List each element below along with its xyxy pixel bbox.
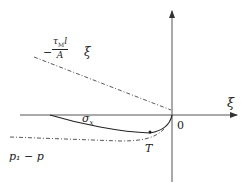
pressure-label: p₁ − p bbox=[9, 151, 44, 162]
shear-label-fraction: τMl A bbox=[52, 37, 68, 60]
shear-label-xi: ξ bbox=[84, 46, 91, 58]
pressure-curve bbox=[10, 128, 165, 141]
point-t bbox=[149, 131, 152, 134]
sigma-subscript: x bbox=[90, 119, 94, 127]
sigma-symbol: σ bbox=[82, 112, 90, 125]
sigma-x-curve bbox=[50, 115, 172, 133]
l-symbol: l bbox=[64, 36, 67, 46]
sigma-x-label: σx bbox=[82, 113, 93, 127]
diagram-canvas: ξ 0 − τMl A ξ σx p₁ − p T bbox=[0, 0, 244, 188]
origin-label: 0 bbox=[177, 120, 184, 131]
a-symbol: A bbox=[52, 50, 68, 60]
shear-label-minus: − bbox=[43, 47, 52, 58]
shear-line bbox=[34, 57, 171, 110]
point-t-label: T bbox=[145, 143, 152, 154]
x-axis-label: ξ bbox=[227, 96, 234, 109]
